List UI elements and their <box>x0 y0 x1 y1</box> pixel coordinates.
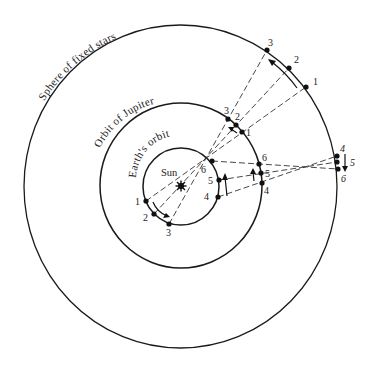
sun-icon <box>176 181 187 192</box>
arrow-head-icon <box>250 168 256 174</box>
earth-point-5 <box>216 177 221 182</box>
earth-label-6: 6 <box>201 164 206 175</box>
sun-label: Sun <box>161 167 178 178</box>
earth-point-4 <box>215 194 220 199</box>
earth-positions <box>143 158 221 226</box>
retrograde-motion-diagram: Sphere of fixed stars Orbit of Jupiter E… <box>0 0 375 367</box>
arrow-head-icon <box>342 166 348 172</box>
jupiter-label-2: 2 <box>235 111 240 122</box>
star-label-3: 3 <box>268 37 273 48</box>
star-point-6 <box>335 166 340 171</box>
arrow-head-icon <box>222 173 228 180</box>
star-label-2: 2 <box>294 54 299 65</box>
jupiter-label-3: 3 <box>224 105 229 116</box>
earth-label-1: 1 <box>135 196 140 207</box>
jupiter-point-1 <box>239 129 244 134</box>
jupiter-positions <box>225 116 264 185</box>
jupiter-label-1: 1 <box>246 127 251 138</box>
star-point-3 <box>264 47 269 52</box>
earth-label-4: 4 <box>204 191 209 202</box>
star-label-5: 5 <box>350 157 355 168</box>
star-label-1: 1 <box>313 76 318 87</box>
star-label-4: 4 <box>340 143 345 154</box>
star-label-6: 6 <box>341 173 346 184</box>
sphere-label: Sphere of fixed stars <box>36 29 118 102</box>
sight-lines <box>146 50 338 224</box>
star-positions <box>264 47 340 171</box>
star-point-4 <box>334 153 339 158</box>
arrow-head-icon <box>163 213 170 218</box>
earth-label-2: 2 <box>143 212 148 223</box>
earth-point-1 <box>143 198 148 203</box>
sight-line-5 <box>219 162 337 180</box>
star-point-1 <box>303 84 308 89</box>
jupiter-orbit-label: Orbit of Jupiter <box>91 94 155 149</box>
jupiter-point-3 <box>225 116 230 121</box>
star-point-2 <box>286 65 291 70</box>
earth-point-6 <box>209 158 214 163</box>
jupiter-label-6: 6 <box>262 152 267 163</box>
earth-point-3 <box>166 221 171 226</box>
jupiter-point-6 <box>256 161 261 166</box>
jupiter-label-4: 4 <box>264 185 269 196</box>
earth-point-2 <box>151 211 156 216</box>
star-labels: 1 2 3 4 5 6 <box>268 37 355 184</box>
motion-arrows <box>153 59 348 218</box>
jupiter-point-2 <box>233 122 238 127</box>
jupiter-label-5: 5 <box>265 168 270 179</box>
star-point-5 <box>334 159 339 164</box>
earth-label-3: 3 <box>166 227 171 238</box>
earth-label-5: 5 <box>208 175 213 186</box>
jupiter-point-5 <box>258 170 263 175</box>
